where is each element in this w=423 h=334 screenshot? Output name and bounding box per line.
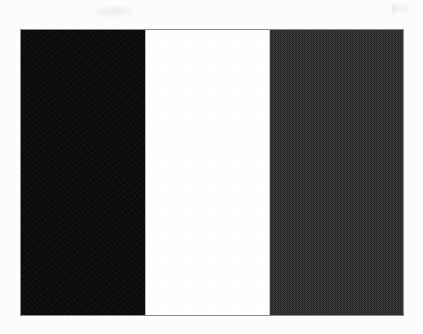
flag-band-middle-white [145, 30, 270, 315]
flag-band-fly-grey [270, 30, 403, 315]
scan-smudge-top-center [96, 5, 132, 18]
scanned-page [0, 0, 423, 334]
flag-band-hoist-black [21, 30, 145, 315]
scan-smudge-top-right [392, 3, 408, 14]
flag-caption [0, 0, 1, 1]
tricolour-flag-image [21, 30, 403, 315]
